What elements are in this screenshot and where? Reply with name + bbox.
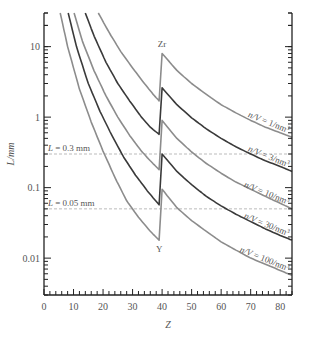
x-tick-label: 50 <box>187 301 197 312</box>
series-label: n/V = 30/nm3 <box>243 211 291 238</box>
x-tick-label: 0 <box>42 301 47 312</box>
series-line <box>60 13 292 275</box>
series-label: n/V = 10/nm3 <box>243 179 291 206</box>
y-tick-label: 0.1 <box>28 182 41 193</box>
series-label: n/V = 100/nm3 <box>239 244 291 273</box>
reference-line-label: L = 0.3 mm <box>47 143 90 153</box>
y-tick-label: 1 <box>35 112 40 123</box>
x-tick-label: 80 <box>275 301 285 312</box>
chart: L = 0.3 mmL = 0.05 mmn/V = 1/nm3n/V = 3/… <box>0 0 312 342</box>
x-tick-label: 30 <box>128 301 138 312</box>
reference-line-label: L = 0.05 mm <box>47 198 95 208</box>
series-label: n/V = 3/nm3 <box>247 144 291 170</box>
y-tick-label: 0.01 <box>23 253 41 264</box>
series-line <box>68 13 292 240</box>
y-tick-label: 10 <box>30 41 40 52</box>
x-tick-label: 10 <box>69 301 79 312</box>
x-tick-label: 60 <box>216 301 226 312</box>
series-5 <box>60 13 292 275</box>
series-group <box>60 13 292 275</box>
x-tick-label: 70 <box>246 301 256 312</box>
x-axis-title: Z <box>165 319 171 330</box>
annotation-y: Y <box>156 244 163 254</box>
x-tick-label: 40 <box>157 301 167 312</box>
series-4 <box>68 13 292 240</box>
x-tick-label: 20 <box>98 301 108 312</box>
y-axis-title: L/mm <box>5 143 16 167</box>
annotation-zr: Zr <box>158 39 167 49</box>
